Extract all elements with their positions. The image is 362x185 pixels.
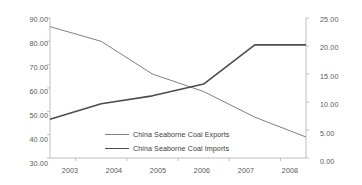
x-axis-tick-2006: 2006: [182, 166, 222, 175]
y-axis-left-tick-0: 30.00: [12, 159, 48, 168]
y-axis-right-tick-1: 5.00: [320, 129, 356, 138]
y-axis-left-tick-6: 90.00: [12, 15, 48, 24]
y-axis-left-tick-2: 50.00: [12, 111, 48, 120]
y-axis-left-tick-3: 60.00: [12, 87, 48, 96]
y-axis-right-tick-4: 20.00: [320, 43, 356, 52]
y-axis-right-tick-3: 15.00: [320, 72, 356, 81]
y-axis-left-tick-5: 80.00: [12, 39, 48, 48]
legend-label-exports: China Seaborne Coal Exports: [133, 130, 229, 139]
line-chart: 90.00 80.00 70.00 60.00 50.00 40.00 30.0…: [0, 0, 362, 185]
legend-line-sample-exports-icon: [105, 134, 129, 135]
y-axis-right-tick-0: 0.00: [320, 157, 356, 166]
y-axis-right-tick-5: 25.00: [320, 15, 356, 24]
x-axis-tick-2007: 2007: [226, 166, 266, 175]
plot-area: [0, 0, 362, 185]
y-axis-right-tick-2: 10.00: [320, 100, 356, 109]
legend-item-exports[interactable]: China Seaborne Coal Exports: [105, 130, 229, 139]
series-line-exports: [50, 27, 306, 137]
x-axis-tick-2003: 2003: [50, 166, 90, 175]
y-axis-left-tick-1: 40.00: [12, 135, 48, 144]
x-axis-tick-2008: 2008: [270, 166, 310, 175]
series-line-imports: [50, 45, 306, 119]
x-axis-tick-2004: 2004: [94, 166, 134, 175]
x-axis-tick-2005: 2005: [138, 166, 178, 175]
legend-item-imports[interactable]: China Seaborne Coal Imports: [105, 144, 229, 153]
y-axis-left-tick-4: 70.00: [12, 63, 48, 72]
legend-label-imports: China Seaborne Coal Imports: [133, 144, 229, 153]
legend-line-sample-imports-icon: [105, 148, 129, 149]
